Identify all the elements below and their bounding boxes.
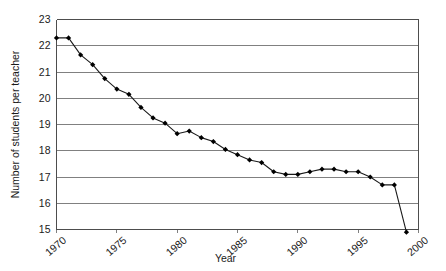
x-tick-labels-group: 1970197519801985199019952000 — [43, 234, 431, 258]
data-point-1986 — [247, 157, 252, 162]
data-point-1999 — [404, 230, 409, 235]
data-point-1981 — [187, 128, 192, 133]
gridlines-group — [57, 20, 419, 230]
data-point-1970 — [54, 35, 59, 40]
x-tick-label-1980: 1980 — [163, 234, 189, 258]
data-point-1985 — [235, 152, 240, 157]
x-axis-title: Year — [215, 252, 237, 264]
data-series-group — [54, 35, 409, 234]
x-tick-label-1990: 1990 — [284, 234, 310, 258]
y-axis-title: Number of students per teacher — [9, 50, 21, 198]
chart-container: 151617181920212223 197019751980198519901… — [0, 0, 446, 271]
x-tick-label-2000: 2000 — [405, 234, 431, 258]
data-point-1993 — [331, 167, 336, 172]
y-tick-label-16: 16 — [39, 197, 51, 209]
y-tick-label-21: 21 — [39, 66, 51, 78]
data-point-1998 — [392, 182, 397, 187]
data-point-markers-group — [54, 35, 409, 234]
y-tick-label-18: 18 — [39, 144, 51, 156]
y-tick-label-19: 19 — [39, 118, 51, 130]
y-tick-label-17: 17 — [39, 171, 51, 183]
x-tick-label-1970: 1970 — [43, 234, 69, 258]
y-tick-label-23: 23 — [39, 13, 51, 25]
data-point-1989 — [283, 172, 288, 177]
data-point-1990 — [295, 172, 300, 177]
data-point-1995 — [356, 169, 361, 174]
x-tick-label-1975: 1975 — [103, 234, 129, 258]
data-point-1991 — [307, 169, 312, 174]
y-tick-label-20: 20 — [39, 92, 51, 104]
y-tick-label-22: 22 — [39, 39, 51, 51]
data-point-1994 — [344, 169, 349, 174]
x-tick-label-1995: 1995 — [344, 234, 370, 258]
y-tick-labels-group: 151617181920212223 — [39, 13, 51, 235]
data-point-1992 — [319, 167, 324, 172]
y-tick-label-15: 15 — [39, 223, 51, 235]
data-point-1982 — [199, 135, 204, 140]
line-chart: 151617181920212223 197019751980198519901… — [0, 0, 446, 271]
